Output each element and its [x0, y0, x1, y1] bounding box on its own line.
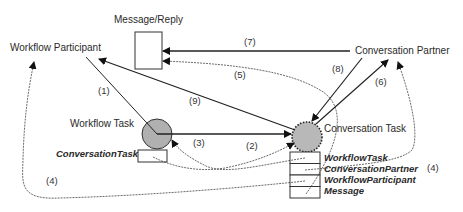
conversation-task-node — [292, 122, 322, 152]
conversation-task-ref-label: ConversationTask — [56, 148, 138, 159]
diagram-canvas: Message/Reply Workflow Participant Conve… — [0, 0, 463, 212]
edge-label-8: (8) — [332, 64, 344, 74]
conversation-task-label: Conversation Task — [324, 123, 406, 134]
edge-6 — [316, 60, 388, 124]
edge-label-9: (9) — [189, 96, 201, 106]
field-message: Message — [324, 185, 364, 196]
message-reply-label: Message/Reply — [114, 14, 183, 25]
edge-label-1: (1) — [98, 86, 110, 96]
field-workflow-participant: WorkflowParticipant — [324, 174, 416, 185]
edge-label-3: (3) — [193, 138, 205, 148]
edge-label-2: (2) — [246, 141, 258, 151]
message-reply-box — [135, 32, 162, 69]
field-conversation-partner: ConversationPartner — [324, 163, 418, 174]
field-workflow-task: WorkflowTask — [324, 152, 388, 163]
conversation-task-ref-box — [138, 150, 167, 162]
edge-label-4-left: (4) — [46, 176, 58, 186]
edge-label-4-right: (4) — [427, 163, 439, 173]
workflow-participant-label: Workflow Participant — [10, 42, 101, 53]
edge-label-7: (7) — [244, 37, 256, 47]
edge-label-6: (6) — [375, 77, 387, 87]
edge-label-5: (5) — [234, 70, 246, 80]
conversation-partner-label: Conversation Partner — [355, 45, 450, 56]
conversation-task-field-stack — [290, 152, 320, 198]
workflow-task-label: Workflow Task — [70, 118, 134, 129]
edge-2 — [153, 143, 294, 170]
